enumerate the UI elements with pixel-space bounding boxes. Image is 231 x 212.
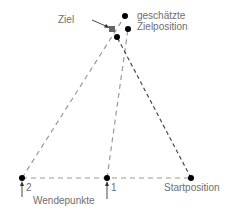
bearing-line-2 [22,16,125,178]
start-dot [188,175,194,181]
estimate-dot-b [125,26,131,32]
target-label: Ziel [58,14,74,25]
estimate-dot-a [122,13,128,19]
target-marker [109,26,115,32]
turn-point-1-dot [104,175,110,181]
turn-point-2-label: 2 [26,182,32,193]
estimated-label-line2: Zielposition [137,21,188,32]
arrowhead-icon [105,181,109,186]
turn-point-1-label: 1 [111,182,117,193]
start-label: Startposition [164,182,220,193]
arrowhead-icon [20,181,24,186]
estimate-dot-c [114,34,120,40]
bearing-line-start [117,37,191,178]
turn-point-2-dot [19,175,25,181]
estimated-label-line1: geschätzte [137,10,185,21]
turn-points-label: Wendepunkte [33,195,95,206]
diagram-canvas [0,0,231,212]
